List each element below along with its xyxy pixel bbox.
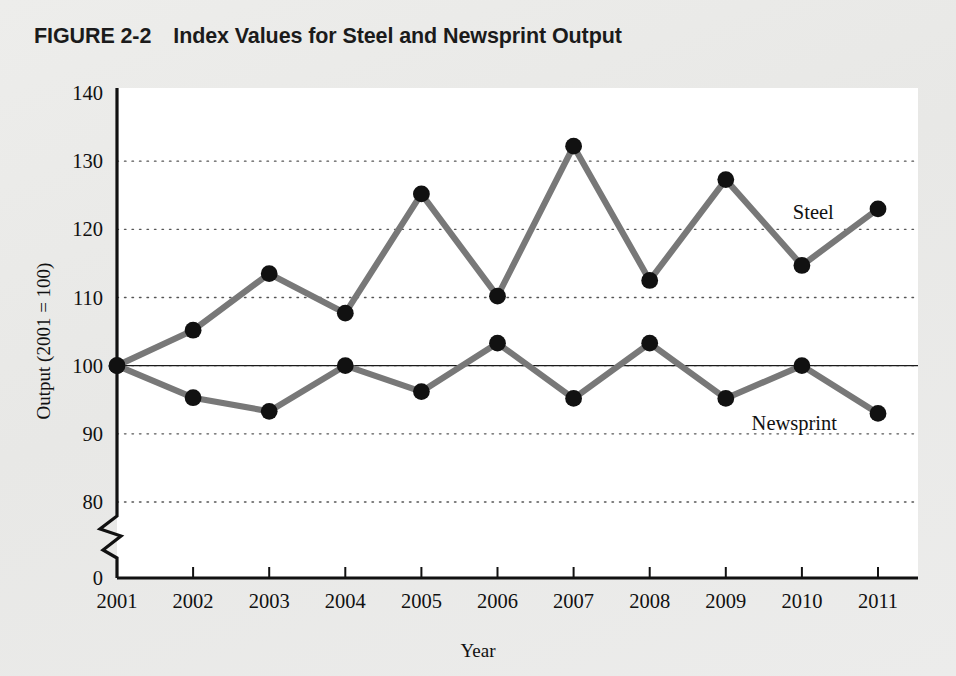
line-chart: SteelNewsprint80901001101201301400200120…: [0, 0, 956, 676]
x-tick-label: 2011: [858, 590, 898, 612]
x-tick-label: 2002: [173, 590, 214, 612]
x-tick-label: 2009: [705, 590, 746, 612]
data-point-steel-2011: [870, 200, 887, 217]
data-point-steel-2006: [489, 288, 506, 305]
data-point-newsprint-2007: [565, 390, 582, 407]
data-point-newsprint-2010: [794, 357, 811, 374]
figure-page: FIGURE 2-2Index Values for Steel and New…: [0, 0, 956, 676]
x-tick-label: 2007: [553, 590, 594, 612]
data-point-newsprint-2011: [870, 405, 887, 422]
y-axis-line-with-break: [100, 88, 121, 578]
data-point-steel-2004: [337, 305, 354, 322]
figure-number: FIGURE 2-2: [34, 24, 151, 48]
data-point-newsprint-2005: [413, 383, 430, 400]
data-point-steel-2010: [794, 257, 811, 274]
data-point-steel-2003: [261, 265, 278, 282]
x-tick-label: 2003: [249, 590, 290, 612]
x-tick-label: 2004: [325, 590, 366, 612]
data-point-newsprint-2004: [337, 357, 354, 374]
y-tick-label: 80: [83, 491, 104, 513]
x-tick-label: 2001: [97, 590, 138, 612]
figure-title: FIGURE 2-2Index Values for Steel and New…: [34, 24, 622, 49]
data-point-steel-2007: [565, 138, 582, 155]
data-point-newsprint-2008: [641, 335, 658, 352]
series-label-steel: Steel: [793, 201, 834, 223]
data-point-steel-2009: [717, 171, 734, 188]
y-tick-label: 110: [73, 287, 103, 309]
y-tick-label: 100: [72, 355, 103, 377]
y-tick-label: 130: [72, 150, 103, 172]
data-point-newsprint-2006: [489, 335, 506, 352]
data-point-steel-2002: [185, 322, 202, 339]
y-tick-label: 120: [72, 218, 103, 240]
x-tick-label: 2005: [401, 590, 442, 612]
data-point-steel-2005: [413, 185, 430, 202]
y-tick-label-zero: 0: [93, 567, 103, 589]
data-point-steel-2008: [641, 272, 658, 289]
data-point-newsprint-2003: [261, 403, 278, 420]
y-tick-label: 140: [72, 82, 103, 104]
y-tick-label: 90: [83, 423, 104, 445]
x-tick-label: 2010: [781, 590, 822, 612]
series-label-newsprint: Newsprint: [752, 412, 838, 435]
data-point-newsprint-2002: [185, 389, 202, 406]
data-point-newsprint-2009: [717, 390, 734, 407]
figure-title-text: Index Values for Steel and Newsprint Out…: [173, 24, 621, 48]
x-tick-label: 2006: [477, 590, 518, 612]
x-tick-label: 2008: [629, 590, 670, 612]
